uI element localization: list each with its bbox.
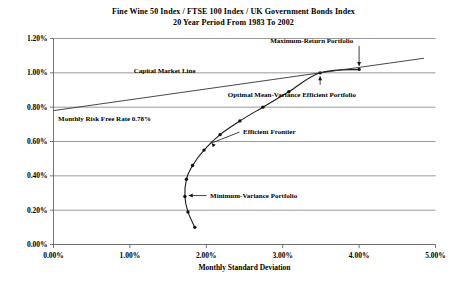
y-tick-label: 0.60% xyxy=(27,137,48,146)
annotation-maximum-return-portfolio: Maximum-Return Portfolio xyxy=(270,37,354,45)
x-tick-label: 4.00% xyxy=(349,251,370,260)
y-tick-label: 0.20% xyxy=(27,206,48,215)
x-tick-label: 5.00% xyxy=(425,251,446,260)
data-point-marker xyxy=(238,119,241,122)
data-point-marker xyxy=(186,210,189,213)
x-tick-label: 2.00% xyxy=(196,251,217,260)
y-tick-label: 0.80% xyxy=(27,103,48,112)
annotation-efficient-frontier: Efficient Frontier xyxy=(243,128,296,136)
x-axis-ticks: 0.00%1.00%2.00%3.00%4.00%5.00% xyxy=(43,245,446,260)
data-point-marker xyxy=(185,178,188,181)
x-tick-label: 3.00% xyxy=(272,251,293,260)
data-point-marker xyxy=(183,195,186,198)
data-point-marker xyxy=(357,68,360,71)
x-tick-label: 1.00% xyxy=(120,251,141,260)
chart-figure: Fine Wine 50 Index / FTSE 100 Index / UK… xyxy=(0,0,467,284)
y-axis-ticks: 0.00%0.20%0.40%0.60%0.80%1.00%1.20% xyxy=(27,34,54,249)
arrow-head-icon xyxy=(189,194,193,198)
data-point-marker xyxy=(191,164,194,167)
arrow-head-icon xyxy=(357,62,361,66)
data-point-marker xyxy=(261,105,264,108)
arrow-head-icon xyxy=(318,76,322,80)
annotation-monthly-risk-free-rate: Monthly Risk Free Rate 0.78% xyxy=(58,115,151,123)
chart-plot-area: 0.00%0.20%0.40%0.60%0.80%1.00%1.20% 0.00… xyxy=(0,0,467,284)
annotation-capital-market-line: Capital Market Line xyxy=(134,67,196,75)
data-point-marker xyxy=(218,133,221,136)
gridlines xyxy=(54,39,436,245)
arrow-head-icon xyxy=(212,143,216,147)
annotation-minimum-variance-portfolio: Minimum-Variance Portfolio xyxy=(210,192,298,200)
y-tick-label: 1.20% xyxy=(27,34,48,43)
y-tick-label: 0.00% xyxy=(27,240,48,249)
data-point-marker xyxy=(202,148,205,151)
data-series-layer xyxy=(54,58,425,229)
annotation-optimal-mean-variance-efficient-portfolio: Optimal Mean-Variance Efficient Portfoli… xyxy=(228,91,357,99)
x-axis-title: Monthly Standard Deviation xyxy=(198,263,291,272)
data-point-marker xyxy=(193,226,196,229)
capital-market-line-curve xyxy=(54,58,425,110)
y-tick-label: 0.40% xyxy=(27,171,48,180)
x-tick-label: 0.00% xyxy=(43,251,64,260)
y-tick-label: 1.00% xyxy=(27,68,48,77)
